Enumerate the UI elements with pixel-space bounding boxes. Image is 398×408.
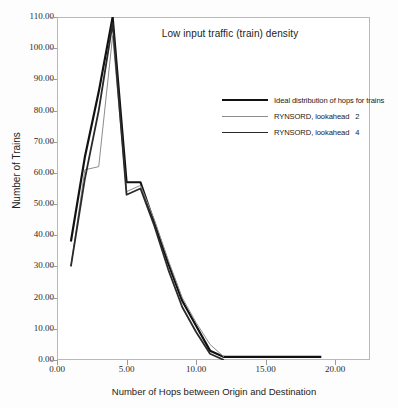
legend-item-lookahead-2: RYNSORD, lookahead 2 [222, 108, 368, 124]
x-tick-label: 0.00 [35, 364, 79, 374]
x-tick-mark [266, 360, 267, 365]
x-tick-mark [57, 360, 58, 365]
x-tick-label: 15.00 [244, 364, 288, 374]
legend-item-ideal: Ideal distribution of hops for trains [222, 92, 368, 108]
x-tick-mark [335, 360, 336, 365]
legend-line-icon-ideal [222, 99, 268, 101]
x-tick-mark [127, 360, 128, 365]
x-tick-mark [196, 360, 197, 365]
legend-value-lookahead-2: 2 [355, 112, 359, 121]
legend-label-lookahead-2: RYNSORD, lookahead [274, 112, 349, 121]
x-tick-label: 5.00 [105, 364, 149, 374]
x-axis-ticks: 0.005.0010.0015.0020.00 [0, 0, 398, 408]
legend-line-icon-lookahead-2 [222, 116, 268, 117]
legend-label-lookahead-4: RYNSORD, lookahead [274, 128, 349, 137]
x-tick-label: 20.00 [313, 364, 357, 374]
legend-value-lookahead-4: 4 [355, 128, 359, 137]
x-tick-label: 10.00 [174, 364, 218, 374]
chart-legend: Ideal distribution of hops for trains RY… [222, 92, 368, 140]
legend-item-lookahead-4: RYNSORD, lookahead 4 [222, 124, 368, 140]
legend-line-icon-lookahead-4 [222, 132, 268, 133]
chart-figure: Low input traffic (train) density Number… [0, 0, 398, 408]
legend-label-ideal: Ideal distribution of hops for trains [274, 96, 384, 105]
